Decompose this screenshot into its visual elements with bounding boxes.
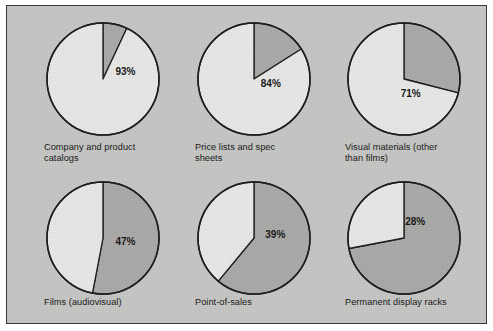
pie-value-label: 47% — [115, 236, 135, 247]
pie-graphic-permanent-display-racks: 28% — [345, 179, 463, 297]
pie-graphic-visual-materials-other-than-films: 71% — [345, 20, 463, 138]
pie-chart-company-and-product-catalogs: 93% — [44, 20, 162, 138]
pie-graphic-company-and-product-catalogs: 93% — [44, 20, 162, 138]
pie-caption-company-and-product-catalogs: Company and product catalogs — [44, 142, 189, 164]
pie-chart-point-of-sales: 39% — [195, 179, 313, 297]
pie-caption-point-of-sales: Point-of-sales — [195, 297, 340, 308]
pie-graphic-price-lists-and-spec-sheets: 84% — [195, 20, 313, 138]
pie-slice-highlight — [348, 182, 404, 248]
pie-chart-price-lists-and-spec-sheets: 84% — [195, 20, 313, 138]
pie-caption-visual-materials-other-than-films: Visual materials (other than films) — [345, 142, 490, 164]
pie-graphic-films-audiovisual: 47% — [44, 179, 162, 297]
pie-value-label: 93% — [115, 66, 135, 77]
pie-value-label: 71% — [401, 88, 421, 99]
pie-value-label: 39% — [265, 229, 285, 240]
pie-chart-permanent-display-racks: 28% — [345, 179, 463, 297]
pie-slice-highlight — [47, 182, 103, 293]
pie-caption-price-lists-and-spec-sheets: Price lists and spec sheets — [195, 142, 340, 164]
pie-chart-films-audiovisual: 47% — [44, 179, 162, 297]
pie-graphic-point-of-sales: 39% — [195, 179, 313, 297]
pie-value-label: 84% — [261, 78, 281, 89]
pie-caption-permanent-display-racks: Permanent display racks — [345, 297, 490, 308]
figure-panel: 93%Company and product catalogs84%Price … — [6, 5, 487, 324]
pie-caption-films-audiovisual: Films (audiovisual) — [44, 297, 189, 308]
pie-chart-visual-materials-other-than-films: 71% — [345, 20, 463, 138]
pie-value-label: 28% — [405, 216, 425, 227]
